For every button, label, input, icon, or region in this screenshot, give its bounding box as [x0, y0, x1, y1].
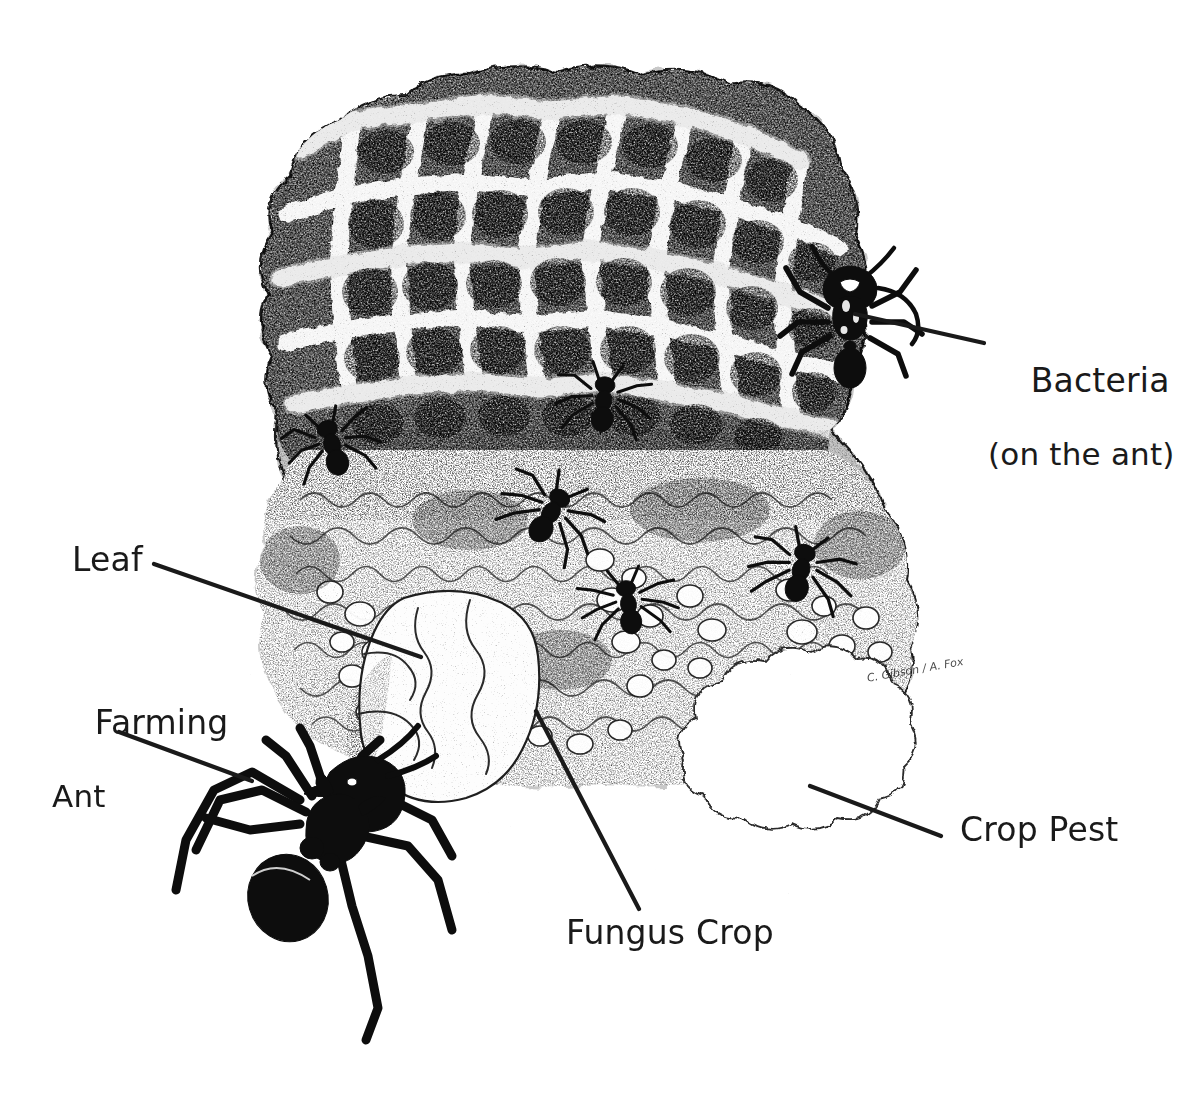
- label-farming-ant: Farming Ant: [52, 668, 229, 887]
- label-farming-ant-line1: Farming: [95, 703, 229, 742]
- label-bacteria: Bacteria (on the ant): [988, 326, 1175, 545]
- label-bacteria-line2: (on the ant): [988, 437, 1175, 472]
- garden-honeycomb-zone: [250, 50, 890, 490]
- label-fungus-crop: Fungus Crop: [566, 915, 774, 952]
- illustration-figure: Bacteria (on the ant) Leaf Farming Ant F…: [0, 0, 1199, 1096]
- label-bacteria-line1: Bacteria: [1031, 361, 1170, 400]
- bacteria-ant-thorax: [833, 296, 868, 340]
- label-crop-pest: Crop Pest: [960, 812, 1118, 849]
- label-leaf: Leaf: [72, 542, 143, 579]
- garden-zone-transition: [250, 430, 940, 520]
- bacteria-ant-gaster: [834, 348, 866, 388]
- label-farming-ant-line2: Ant: [52, 779, 229, 814]
